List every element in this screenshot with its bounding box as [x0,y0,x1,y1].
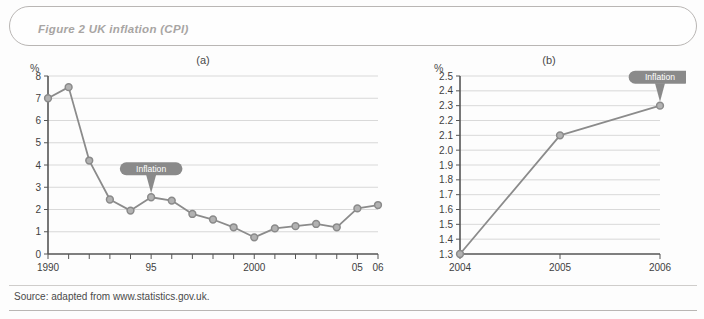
x-tick-label: 06 [372,262,384,273]
x-tick-label: 2004 [449,262,472,273]
data-point-marker [86,157,93,164]
y-tick-label: 4 [35,160,41,171]
data-point-marker [230,224,237,231]
callout-inflation: Inflation [629,71,686,102]
series-line-inflation [48,87,378,237]
y-tick-label: 1.4 [439,234,453,245]
data-point-marker [657,102,664,109]
y-tick-label: 7 [35,93,41,104]
data-point-marker [457,251,464,258]
data-point-marker [65,84,72,91]
callout-inflation: Inflation [120,162,183,193]
y-tick-label: 0 [35,249,41,260]
figure-title: Figure 2 UK inflation (CPI) [38,23,189,35]
figure-container: Figure 2 UK inflation (CPI) (a) % 012345… [0,0,704,319]
callout-label: Inflation [645,72,675,82]
callout-label: Inflation [136,164,166,174]
y-tick-label: 1.3 [439,249,453,260]
y-tick-label: 6 [35,115,41,126]
y-tick-label: 2.2 [439,115,453,126]
y-tick-label: 1.5 [439,219,453,230]
y-tick-label: 2.0 [439,145,453,156]
figure-bottom-border [9,310,697,311]
data-point-marker [127,207,134,214]
y-tick-label: 3 [35,182,41,193]
data-point-marker [45,95,52,102]
chart-panel-b: (b) % 1.31.41.51.61.71.81.92.02.12.22.32… [424,52,686,284]
x-tick-label: 2006 [649,262,672,273]
y-tick-label: 1.6 [439,204,453,215]
y-tick-label: 5 [35,137,41,148]
data-point-marker [557,132,564,139]
figure-divider [9,285,697,286]
x-tick-label: 05 [352,262,364,273]
figure-header-bar: Figure 2 UK inflation (CPI) [9,6,697,46]
data-point-marker [148,194,155,201]
x-tick-label: 1990 [37,262,60,273]
data-point-marker [313,221,320,228]
x-tick-label: 2005 [549,262,572,273]
chart-panel-a: (a) % 01234567819909520000506Inflation [18,52,388,284]
y-tick-label: 2.3 [439,100,453,111]
y-tick-label: 2.1 [439,130,453,141]
data-point-marker [168,197,175,204]
y-tick-label: 1.9 [439,160,453,171]
figure-source: Source: adapted from www.statistics.gov.… [14,291,209,302]
y-tick-label: 2 [35,204,41,215]
data-point-marker [375,202,382,209]
y-tick-label: 2.4 [439,85,453,96]
x-tick-label: 2000 [243,262,266,273]
callout-pointer [655,83,665,102]
panel-b-plot: 1.31.41.51.61.71.81.92.02.12.22.32.42.52… [424,52,686,284]
y-tick-label: 1.7 [439,189,453,200]
y-tick-label: 2.5 [439,71,453,82]
data-point-marker [251,234,258,241]
data-point-marker [271,225,278,232]
data-point-marker [106,196,113,203]
data-point-marker [210,216,217,223]
callout-pointer [146,175,156,194]
x-tick-label: 95 [146,262,158,273]
y-tick-label: 8 [35,71,41,82]
data-point-marker [354,205,361,212]
data-point-marker [333,224,340,231]
y-tick-label: 1 [35,226,41,237]
data-point-marker [292,223,299,230]
data-point-marker [189,211,196,218]
panel-a-plot: 01234567819909520000506Inflation [18,52,388,284]
y-tick-label: 1.8 [439,174,453,185]
